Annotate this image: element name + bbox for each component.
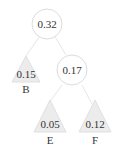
leaf-e-value: 0.05	[40, 118, 60, 130]
leaf-f: 0.12 F	[79, 100, 111, 146]
internal-value: 0.17	[62, 64, 82, 76]
leaf-b-value: 0.15	[16, 68, 36, 80]
leaf-b-label: B	[22, 83, 29, 95]
huffman-tree-diagram: 0.32 0.15 B 0.17 0.05 E 0.12 F	[0, 0, 115, 156]
edge-root-internal	[54, 35, 66, 55]
leaf-f-value: 0.12	[85, 118, 104, 130]
internal-node: 0.17	[57, 55, 87, 85]
edge-internal-f	[82, 85, 92, 104]
leaf-e-label: E	[47, 134, 54, 146]
leaf-f-label: F	[92, 134, 98, 146]
leaf-b: 0.15 B	[12, 56, 40, 95]
root-node: 0.32	[32, 9, 62, 39]
edge-root-b	[26, 36, 40, 56]
leaf-e: 0.05 E	[34, 100, 66, 146]
root-value: 0.32	[37, 18, 56, 30]
